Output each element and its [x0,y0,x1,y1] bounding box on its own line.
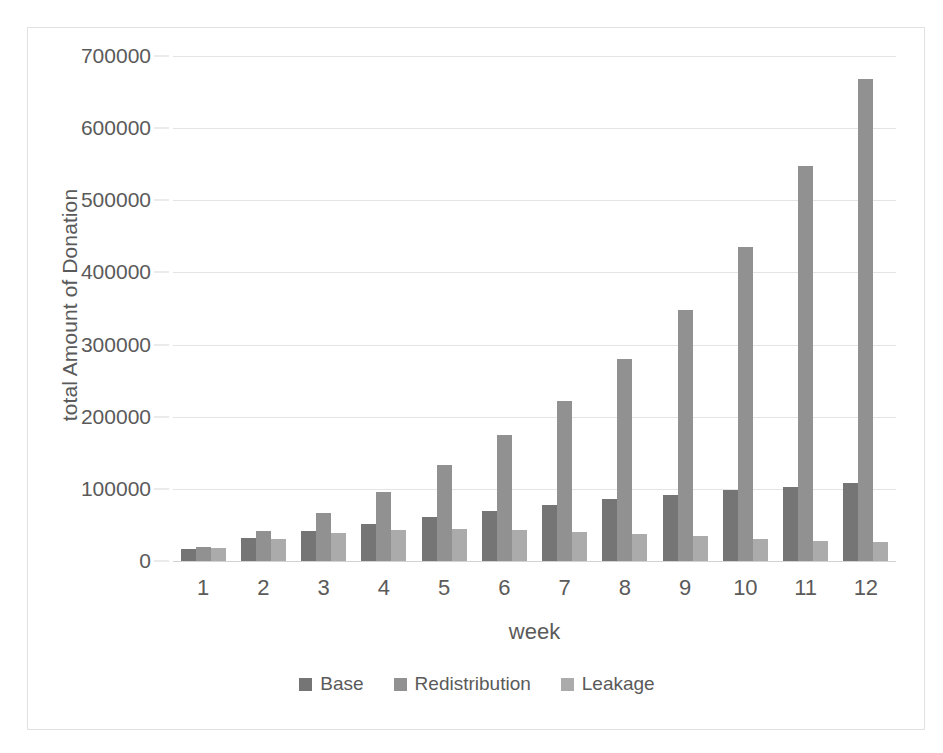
bar-redistribution-week-5 [437,465,452,561]
bar-group [474,56,534,561]
bar-base-week-9 [663,495,678,561]
bar-base-week-4 [361,524,376,561]
bar-redistribution-week-10 [738,247,753,561]
bar-group [836,56,896,561]
y-tick-mark [154,344,169,345]
x-tick-label: 9 [679,575,691,601]
x-axis-title: week [173,619,896,645]
bar-base-week-6 [482,511,497,562]
bar-group [776,56,836,561]
bar-base-week-5 [422,517,437,561]
bar-leakage-week-3 [331,533,346,561]
bar-leakage-week-5 [452,529,467,561]
bar-group [535,56,595,561]
x-tick-label: 2 [257,575,269,601]
y-tick-label: 200000 [81,405,151,429]
bar-group [173,56,233,561]
y-tick-label: 600000 [81,116,151,140]
x-tick-label: 11 [794,575,817,601]
plot-area: 0100000200000300000400000500000600000700… [173,56,896,561]
bar-group [715,56,775,561]
bar-redistribution-week-4 [376,492,391,561]
bar-redistribution-week-1 [196,547,211,561]
y-tick-mark [154,561,169,562]
x-tick-label: 10 [733,575,757,601]
bar-redistribution-week-11 [798,166,813,561]
bar-leakage-week-2 [271,539,286,561]
bar-leakage-week-4 [391,530,406,561]
bar-leakage-week-11 [813,541,828,561]
y-tick-label: 500000 [81,188,151,212]
x-tick-label: 7 [559,575,571,601]
x-tick-label: 5 [438,575,450,601]
bar-base-week-2 [241,538,256,561]
bar-group [414,56,474,561]
bar-group [294,56,354,561]
x-tick-label: 8 [619,575,631,601]
bar-group [354,56,414,561]
chart-legend: BaseRedistributionLeakage [28,673,926,695]
bar-redistribution-week-8 [617,359,632,561]
x-tick-label: 1 [197,575,209,601]
y-tick-mark [154,488,169,489]
y-tick-mark [154,128,169,129]
y-axis-title: total Amount of Donation [58,105,82,505]
y-tick-mark [154,416,169,417]
bar-leakage-week-1 [211,548,226,561]
bar-group [595,56,655,561]
bar-group [655,56,715,561]
legend-item-base[interactable]: Base [299,673,363,695]
gridline [173,561,896,562]
bar-redistribution-week-2 [256,531,271,561]
bar-leakage-week-10 [753,539,768,561]
y-tick-mark [154,272,169,273]
bar-leakage-week-12 [873,542,888,561]
bar-redistribution-week-9 [678,310,693,561]
bar-leakage-week-8 [632,534,647,561]
bar-base-week-1 [181,549,196,561]
bar-leakage-week-9 [693,536,708,561]
y-tick-label: 0 [139,549,151,573]
bar-base-week-11 [783,487,798,561]
legend-swatch-redistribution-icon [394,678,407,691]
y-tick-mark [154,56,169,57]
y-tick-label: 300000 [81,333,151,357]
bar-group [233,56,293,561]
y-tick-label: 700000 [81,44,151,68]
legend-label: Base [320,673,363,695]
legend-label: Leakage [582,673,655,695]
bar-base-week-12 [843,483,858,561]
legend-label: Redistribution [415,673,531,695]
bar-base-week-7 [542,505,557,561]
bar-base-week-10 [723,490,738,561]
chart-frame: total Amount of Donation 010000020000030… [27,27,925,730]
bar-leakage-week-6 [512,530,527,561]
legend-swatch-base-icon [299,678,312,691]
x-tick-label: 12 [854,575,878,601]
y-tick-label: 100000 [81,477,151,501]
bar-redistribution-week-3 [316,513,331,561]
bar-redistribution-week-12 [858,79,873,561]
bar-leakage-week-7 [572,532,587,561]
legend-item-leakage[interactable]: Leakage [561,673,655,695]
legend-item-redistribution[interactable]: Redistribution [394,673,531,695]
x-tick-label: 6 [498,575,510,601]
bar-series-container [173,56,896,561]
bar-redistribution-week-6 [497,435,512,561]
x-tick-label: 3 [318,575,330,601]
bar-base-week-3 [301,531,316,561]
y-tick-mark [154,200,169,201]
x-tick-label: 4 [378,575,390,601]
legend-swatch-leakage-icon [561,678,574,691]
bar-base-week-8 [602,499,617,561]
y-tick-label: 400000 [81,260,151,284]
bar-redistribution-week-7 [557,401,572,561]
